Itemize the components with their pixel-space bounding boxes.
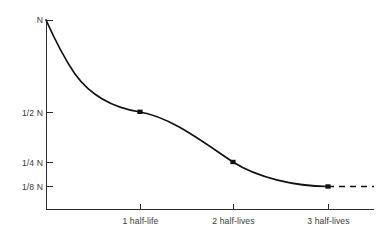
y-tick-label-quarter-n: 1/4 N	[22, 158, 43, 168]
x-tick-label-1: 1 half-life	[123, 216, 159, 226]
decay-chart: N 1/2 N 1/4 N 1/8 N 1 half-life 2 half-l…	[0, 0, 387, 237]
chart-canvas: N 1/2 N 1/4 N 1/8 N 1 half-life 2 half-l…	[0, 0, 387, 237]
data-point-marker-1	[137, 110, 142, 114]
y-tick-label-n: N	[37, 15, 43, 25]
y-tick-label-half-n: 1/2 N	[22, 108, 43, 118]
y-tick-label-eighth-n: 1/8 N	[22, 182, 43, 192]
data-point-marker-2	[230, 160, 235, 164]
x-tick-label-2: 2 half-lives	[212, 216, 254, 226]
x-tick-label-3: 3 half-lives	[307, 216, 349, 226]
data-point-marker-3	[325, 184, 330, 188]
decay-curve-path	[46, 20, 328, 187]
